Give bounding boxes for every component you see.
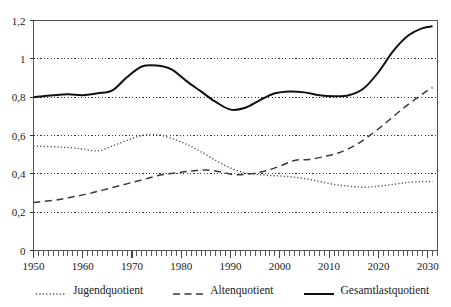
chart-legend: JugendquotientAltenquotientGesamtlastquo… <box>0 278 451 302</box>
y-tick-label: 0,8 <box>12 91 26 103</box>
y-tick-label: 0,2 <box>12 206 26 218</box>
legend-label: Jugendquotient <box>73 284 143 296</box>
x-tick-label: 1960 <box>72 260 95 271</box>
series-line-altenquotient <box>34 88 433 203</box>
legend-item[interactable]: Jugendquotient <box>36 284 143 296</box>
x-tick-label: 1970 <box>121 260 144 271</box>
x-tick-label: 2000 <box>269 260 292 271</box>
x-tick-label: 2010 <box>318 260 341 271</box>
gridlines <box>34 59 438 212</box>
legend-swatch-dashed <box>173 285 203 295</box>
legend-label: Gesamtlastquotient <box>341 284 430 296</box>
series-line-gesamtlastquotient <box>34 26 433 110</box>
x-tick-label: 1990 <box>220 260 243 271</box>
legend-label: Altenquotient <box>210 284 273 296</box>
y-tick-label: 0,4 <box>12 168 26 180</box>
y-tick-label: 0 <box>20 245 26 257</box>
series-line-jugendquotient <box>34 134 433 187</box>
y-tick-label: 1 <box>20 53 26 65</box>
chart-page: 00,20,40,60,811,219501960197019801990200… <box>0 0 451 307</box>
x-tick-label: 1980 <box>170 260 193 271</box>
y-axis <box>30 21 438 251</box>
y-tick-label: 1,2 <box>12 15 26 27</box>
x-axis <box>34 251 438 258</box>
data-series-group <box>34 26 433 202</box>
legend-item[interactable]: Gesamtlastquotient <box>304 284 430 296</box>
axis-tick-labels: 00,20,40,60,811,219501960197019801990200… <box>12 15 439 271</box>
x-tick-label: 2020 <box>367 260 390 271</box>
x-tick-label: 1950 <box>23 260 46 271</box>
line-chart: 00,20,40,60,811,219501960197019801990200… <box>0 0 451 270</box>
legend-swatch-solid <box>304 285 334 295</box>
y-tick-label: 0,6 <box>12 130 26 142</box>
x-tick-label: 2030 <box>417 260 440 271</box>
legend-item[interactable]: Altenquotient <box>173 284 273 296</box>
legend-swatch-dotted <box>36 285 66 295</box>
chart-plot-area: 00,20,40,60,811,219501960197019801990200… <box>0 0 451 270</box>
